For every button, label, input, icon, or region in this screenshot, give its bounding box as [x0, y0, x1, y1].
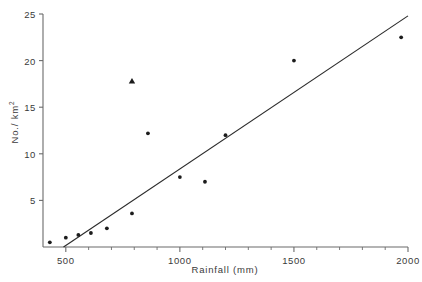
data-point-circle	[130, 212, 134, 216]
y-tick-label: 20	[12, 55, 36, 66]
x-tick-label: 500	[57, 255, 75, 266]
x-tick-label: 2000	[396, 255, 420, 266]
plot-canvas	[0, 0, 422, 282]
x-axis-title: Rainfall (mm)	[192, 264, 259, 275]
y-tick-label: 25	[12, 9, 36, 20]
data-point-circle	[64, 236, 68, 240]
data-point-circle	[89, 231, 93, 235]
data-point-circle	[146, 131, 150, 135]
axes-group	[39, 14, 408, 252]
regression-line	[64, 16, 408, 247]
data-point-circle	[105, 226, 109, 230]
y-axis-title-base: No./ km	[9, 105, 20, 143]
data-point-triangle	[129, 78, 135, 84]
x-tick-label: 1000	[168, 255, 192, 266]
data-point-circle	[224, 133, 228, 137]
data-point-circle	[48, 240, 52, 244]
data-point-circle	[292, 59, 296, 63]
y-tick-label: 10	[12, 148, 36, 159]
data-point-circle	[203, 180, 207, 184]
y-tick-label: 5	[12, 195, 36, 206]
data-markers-group	[48, 35, 403, 244]
x-tick-label: 1500	[282, 255, 306, 266]
y-axis-title: No./ km2	[8, 101, 20, 144]
data-point-circle	[399, 35, 403, 39]
y-axis-title-exponent: 2	[8, 101, 15, 105]
scatter-plot-figure: 510152025 500100015002000 Rainfall (mm) …	[0, 0, 422, 282]
data-point-circle	[76, 233, 80, 237]
data-point-circle	[178, 175, 182, 179]
